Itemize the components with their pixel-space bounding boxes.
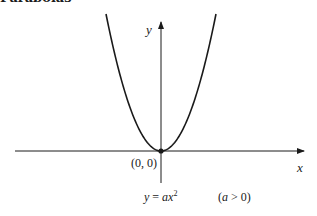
y-axis-label: y	[144, 22, 152, 37]
vertex-point	[158, 148, 163, 153]
condition-label: (a > 0)	[218, 190, 251, 204]
vertex-label: (0, 0)	[131, 156, 157, 170]
parabola-diagram: y x (0, 0) y = ax2 (a > 0)	[0, 0, 317, 216]
x-axis-label: x	[296, 160, 303, 175]
equation-label: y = ax2	[143, 189, 177, 204]
